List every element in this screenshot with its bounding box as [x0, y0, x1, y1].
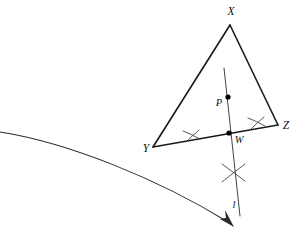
sweep-arrow-curve	[0, 132, 234, 227]
label-vertex-z: Z	[283, 119, 290, 131]
arc-mark-right-upper	[248, 118, 265, 126]
point-p-dot	[225, 94, 230, 99]
geometry-canvas: X Y Z P W l	[0, 0, 298, 234]
geometry-figure: X Y Z P W l	[0, 0, 298, 234]
label-point-p: P	[215, 97, 223, 108]
sweep-curve-path	[0, 132, 228, 222]
segment-xz	[230, 25, 278, 125]
point-w-dot	[226, 130, 231, 135]
figure-labels: X Y Z P W l	[143, 5, 290, 210]
segment-yz	[153, 125, 278, 147]
label-vertex-y: Y	[143, 142, 151, 154]
construction-marks	[183, 117, 265, 182]
label-point-w: W	[235, 134, 245, 145]
label-vertex-x: X	[226, 5, 235, 17]
triangle-xyz	[153, 25, 278, 147]
arc-mark-left-upper	[183, 131, 200, 139]
segment-xy	[153, 25, 230, 147]
label-line-l: l	[233, 199, 236, 210]
